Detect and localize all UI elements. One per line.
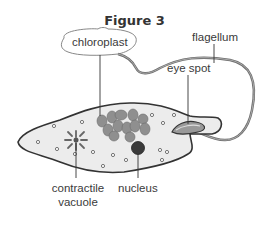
nucleus <box>132 142 145 155</box>
label-contractile-line1: contractile <box>47 181 109 195</box>
label-flagellum: flagellum <box>192 30 238 44</box>
label-eye-spot: eye spot <box>167 61 210 75</box>
label-nucleus: nucleus <box>118 181 158 195</box>
label-chloroplast: chloroplast <box>72 35 128 49</box>
label-contractile-line2: vacuole <box>47 195 109 209</box>
label-contractile-vacuole: contractile vacuole <box>47 181 109 209</box>
